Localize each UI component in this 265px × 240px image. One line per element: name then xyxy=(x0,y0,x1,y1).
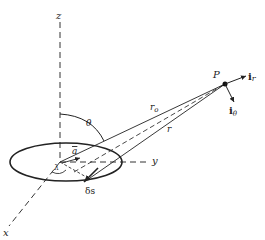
z-axis-label: z xyxy=(55,10,62,21)
r0-line xyxy=(60,84,225,162)
r-label: r xyxy=(167,124,172,134)
radius-a-line xyxy=(60,162,88,178)
theta-arc xyxy=(60,114,104,141)
unit-theta-arrow xyxy=(225,84,234,102)
unit-theta-label: iθ xyxy=(229,105,238,118)
current-element-arrow xyxy=(84,168,98,182)
y-axis-label: y xyxy=(151,155,158,166)
unit-r-label: ir xyxy=(248,71,257,83)
x-axis-label: x xyxy=(3,227,9,238)
current-element-label: δs xyxy=(85,186,95,196)
r-dashed-line xyxy=(74,84,225,172)
theta-label: θ xyxy=(86,118,92,128)
lambda-label: λ xyxy=(53,163,59,172)
loop-field-diagram: z y x a λ δs ro r θ P ir iθ xyxy=(0,0,265,240)
r0-label: ro xyxy=(150,102,159,114)
field-point-label: P xyxy=(212,69,220,80)
unit-r-arrow xyxy=(225,76,246,84)
